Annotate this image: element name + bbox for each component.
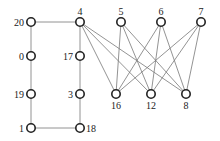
edge-5-16	[116, 22, 121, 94]
node-12: 12	[146, 90, 156, 111]
node-19: 19	[14, 89, 35, 100]
node-label: 20	[14, 17, 24, 28]
node-0: 0	[19, 51, 35, 62]
node-circle	[147, 90, 155, 98]
node-label: 4	[78, 6, 83, 17]
node-circle	[76, 90, 84, 98]
node-circle	[76, 18, 84, 26]
edge-6-8	[161, 22, 186, 94]
edge-4-12	[80, 22, 151, 94]
edge-6-12	[151, 22, 161, 94]
node-17: 17	[63, 51, 84, 62]
node-circle	[27, 18, 35, 26]
node-circle	[117, 18, 125, 26]
edge-4-16	[80, 22, 116, 94]
node-3: 3	[68, 89, 84, 100]
node-circle	[27, 124, 35, 132]
edges-layer	[31, 22, 201, 128]
node-circle	[197, 18, 205, 26]
node-circle	[27, 52, 35, 60]
node-label: 1	[19, 123, 24, 134]
node-label: 16	[111, 100, 121, 111]
edge-4-8	[80, 22, 186, 94]
node-7: 7	[197, 6, 205, 26]
node-circle	[76, 124, 84, 132]
node-circle	[76, 52, 84, 60]
edge-5-12	[121, 22, 151, 94]
node-18: 18	[76, 123, 96, 134]
node-circle	[157, 18, 165, 26]
node-label: 5	[119, 6, 124, 17]
node-label: 7	[199, 6, 204, 17]
node-label: 6	[159, 6, 164, 17]
node-label: 18	[86, 123, 96, 134]
node-8: 8	[182, 90, 190, 111]
node-circle	[182, 90, 190, 98]
node-label: 3	[68, 89, 73, 100]
node-1: 1	[19, 123, 35, 134]
edge-6-16	[116, 22, 161, 94]
node-4: 4	[76, 6, 84, 26]
graph-diagram: 20019141731856716128	[0, 0, 220, 141]
node-label: 19	[14, 89, 24, 100]
node-label: 8	[184, 100, 189, 111]
node-16: 16	[111, 90, 121, 111]
node-5: 5	[117, 6, 125, 26]
node-label: 17	[63, 51, 73, 62]
node-label: 0	[19, 51, 24, 62]
node-circle	[112, 90, 120, 98]
node-6: 6	[157, 6, 165, 26]
node-label: 12	[146, 100, 156, 111]
node-circle	[27, 90, 35, 98]
node-20: 20	[14, 17, 35, 28]
nodes-layer: 20019141731856716128	[14, 6, 205, 134]
